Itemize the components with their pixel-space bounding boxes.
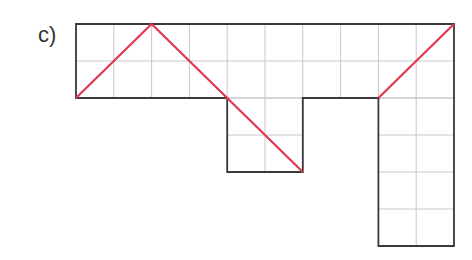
grid-figure: [0, 0, 472, 260]
